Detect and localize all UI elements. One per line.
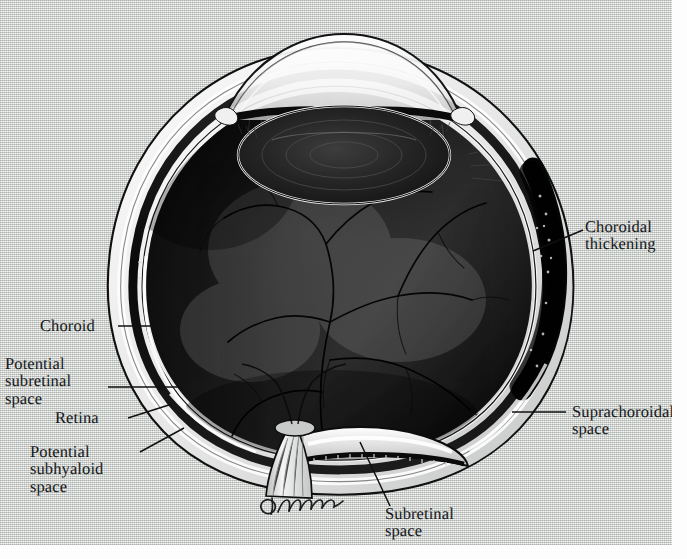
label-potential-subretinal-space: Potential subretinal space — [5, 355, 71, 407]
anterior-segment — [215, 34, 475, 204]
label-potential-subhyaloid-space: Potential subhyaloid space — [30, 443, 103, 495]
optic-nerve-head — [275, 420, 315, 436]
page-margin-right — [672, 0, 687, 559]
label-choroidal-thickening: Choroidal thickening — [585, 218, 656, 253]
label-retina: Retina — [55, 409, 99, 426]
figure-root: Choroidal thickening Choroid Potential s… — [0, 0, 687, 559]
label-subretinal-space: Subretinal space — [385, 505, 454, 540]
lens — [238, 106, 450, 204]
label-suprachoroidal-space: Suprachoroidal space — [572, 403, 674, 438]
label-choroid: Choroid — [40, 317, 95, 334]
page-margin-bottom — [0, 545, 687, 559]
artist-signature — [261, 498, 343, 514]
